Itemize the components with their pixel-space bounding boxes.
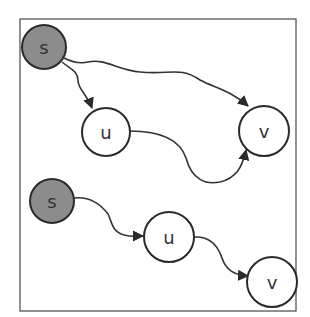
top-graph-nodes: s u v bbox=[22, 25, 289, 156]
graph-diagram: s u v s u v bbox=[0, 0, 310, 317]
edge-s-u-top bbox=[62, 62, 92, 108]
node-label: s bbox=[47, 191, 56, 212]
node-u-top: u bbox=[82, 108, 130, 156]
node-s-top: s bbox=[22, 25, 66, 69]
node-label: s bbox=[39, 37, 48, 58]
edge-s-v-top bbox=[64, 58, 248, 106]
edge-s-u-bottom bbox=[74, 198, 143, 237]
node-u-bottom: u bbox=[144, 212, 194, 262]
bottom-graph-nodes: s u v bbox=[30, 179, 297, 307]
node-label: v bbox=[259, 121, 270, 142]
edge-u-v-bottom bbox=[194, 237, 248, 276]
node-label: u bbox=[163, 227, 174, 248]
node-s-bottom: s bbox=[30, 179, 74, 223]
edge-u-v-top bbox=[130, 131, 246, 183]
node-label: u bbox=[100, 122, 111, 143]
node-v-top: v bbox=[239, 106, 289, 156]
node-v-bottom: v bbox=[247, 257, 297, 307]
node-label: v bbox=[267, 272, 278, 293]
